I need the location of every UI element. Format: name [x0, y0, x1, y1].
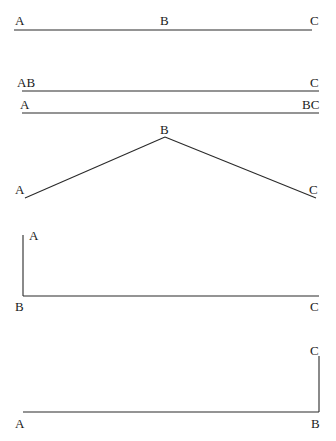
point-label: C — [310, 75, 319, 90]
diagram-canvas: ABCABCABCBACABCCAB — [0, 0, 336, 441]
line-segment — [25, 137, 165, 198]
point-label: A — [20, 97, 30, 112]
point-label: C — [310, 299, 319, 314]
point-label: C — [310, 13, 319, 28]
figure-straight-line-abc: ABC — [14, 13, 319, 30]
point-label: B — [311, 416, 320, 431]
point-label: A — [29, 228, 39, 243]
point-label: A — [15, 182, 25, 197]
point-label: B — [15, 299, 24, 314]
line-segment — [165, 137, 316, 198]
figure-line-a-bc: ABC — [20, 97, 319, 113]
point-label: C — [310, 343, 319, 358]
point-label: B — [160, 13, 169, 28]
figure-angle-peak-b: BAC — [15, 122, 318, 198]
point-label: A — [15, 416, 25, 431]
figure-line-ab-c: ABC — [17, 75, 319, 91]
figure-right-angle-at-b-right: CAB — [15, 343, 320, 431]
point-label: C — [309, 182, 318, 197]
point-label: BC — [302, 97, 319, 112]
point-label: B — [160, 122, 169, 137]
point-label: A — [15, 13, 25, 28]
figure-right-angle-at-b-left: ABC — [15, 228, 319, 314]
point-label: AB — [17, 75, 35, 90]
